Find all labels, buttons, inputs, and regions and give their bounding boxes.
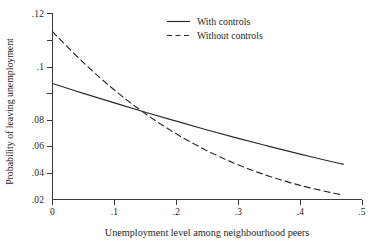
chart-plot-svg: [0, 0, 375, 247]
series-line-without-controls: [53, 32, 344, 195]
x-tick-label-5: .5: [358, 207, 365, 217]
legend-label-with-controls: With controls: [197, 16, 250, 27]
x-tick-marks: [53, 200, 363, 205]
y-tick-marks: [47, 14, 53, 174]
chart-figure: .12 .1 .08 .06 .04 .02 0 .1 .2 .3 .4 .5 …: [0, 0, 375, 247]
y-axis-title: Probability of leaving unemployment: [4, 17, 15, 207]
x-tick-label-4: .4: [297, 207, 304, 217]
x-tick-label-0: 0: [50, 207, 55, 217]
x-tick-label-1: .1: [111, 207, 118, 217]
legend-label-without-controls: Without controls: [197, 30, 263, 41]
series-line-with-controls: [53, 84, 344, 165]
x-tick-label-3: .3: [235, 207, 242, 217]
x-axis-title: Unemployment level among neighbourhood p…: [52, 227, 362, 238]
x-tick-label-2: .2: [173, 207, 180, 217]
